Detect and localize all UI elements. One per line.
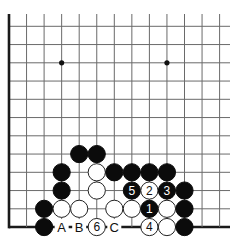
white-stone	[158, 200, 175, 217]
black-stone-icon	[36, 218, 53, 235]
white-stone-icon	[88, 182, 105, 199]
move-number: 5	[129, 184, 136, 198]
star-point-icon	[164, 60, 169, 65]
star-point-icon	[59, 60, 64, 65]
white-stone	[123, 200, 140, 217]
black-stone	[176, 200, 193, 217]
black-stone-move-3: 3	[158, 182, 175, 199]
white-stone-icon	[53, 200, 70, 217]
point-label-a: A	[57, 220, 66, 235]
white-stone	[88, 164, 105, 181]
white-stone-icon	[106, 200, 123, 217]
black-stone-icon	[88, 145, 105, 162]
white-stone-move-4: 4	[141, 218, 158, 235]
black-stone	[141, 164, 158, 181]
black-stone	[123, 164, 140, 181]
board-grid	[9, 14, 230, 228]
point-label-b: B	[75, 220, 84, 235]
go-board: ABC 523164	[0, 0, 240, 245]
white-stone	[88, 182, 105, 199]
black-stone	[71, 145, 88, 162]
black-stone-icon	[141, 164, 158, 181]
black-stone-icon	[71, 145, 88, 162]
black-stone	[53, 164, 70, 181]
white-stone-icon	[123, 200, 140, 217]
move-number: 4	[146, 220, 153, 234]
black-stone	[88, 145, 105, 162]
black-stone	[176, 218, 193, 235]
black-stone	[53, 182, 70, 199]
black-stone-icon	[158, 164, 175, 181]
white-stone	[106, 200, 123, 217]
move-number: 3	[164, 184, 171, 198]
black-stone-move-1: 1	[141, 200, 158, 217]
black-stone-icon	[123, 164, 140, 181]
point-label-c: C	[110, 220, 119, 235]
white-stone	[71, 200, 88, 217]
white-stone-icon	[88, 164, 105, 181]
white-stone	[158, 218, 175, 235]
black-stone-icon	[176, 182, 193, 199]
white-stone-move-6: 6	[88, 218, 105, 235]
black-stone	[158, 164, 175, 181]
black-stone	[176, 182, 193, 199]
black-stone	[36, 218, 53, 235]
black-stone-icon	[53, 182, 70, 199]
black-stone-icon	[176, 218, 193, 235]
black-stone-icon	[53, 164, 70, 181]
black-stone-icon	[106, 164, 123, 181]
black-stone	[36, 200, 53, 217]
move-number: 1	[146, 202, 153, 216]
white-stone-move-2: 2	[141, 182, 158, 199]
white-stone-icon	[158, 218, 175, 235]
move-number: 6	[93, 220, 100, 234]
black-stone	[106, 164, 123, 181]
black-stone-icon	[36, 200, 53, 217]
white-stone	[53, 200, 70, 217]
white-stone-icon	[71, 200, 88, 217]
black-stone-icon	[176, 200, 193, 217]
move-number: 2	[146, 184, 153, 198]
white-stone-icon	[158, 200, 175, 217]
black-stone-move-5: 5	[123, 182, 140, 199]
